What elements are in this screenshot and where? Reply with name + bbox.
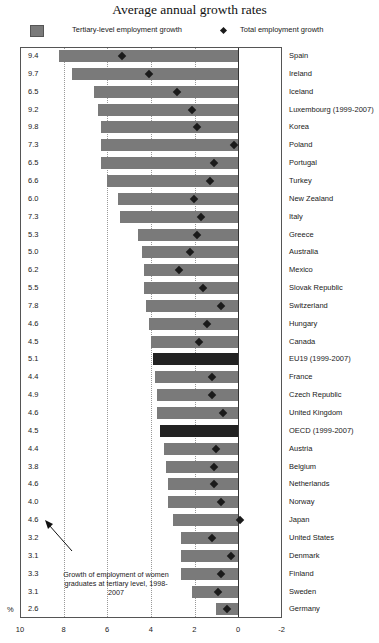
unit-label: % xyxy=(7,605,14,614)
x-tick-label: 2 xyxy=(192,625,196,634)
annotation-arrow xyxy=(0,0,379,643)
annotation-text: Growth of employment of women graduates … xyxy=(60,570,172,597)
x-tick-label: 0 xyxy=(236,625,240,634)
x-tick-label: 6 xyxy=(105,625,109,634)
x-tick-label: -2 xyxy=(278,625,285,634)
x-tick-label: 10 xyxy=(16,625,24,634)
x-tick-label: 8 xyxy=(62,625,66,634)
x-tick-label: 4 xyxy=(149,625,153,634)
